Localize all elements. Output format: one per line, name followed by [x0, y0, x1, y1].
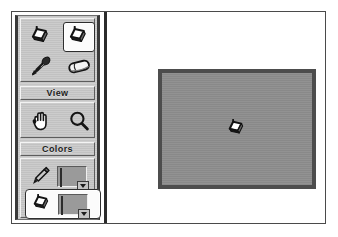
- tool-zoom[interactable]: [63, 106, 95, 136]
- swatch-background-dropdown[interactable]: [78, 209, 90, 219]
- paint-bucket-icon: [67, 26, 91, 48]
- view-group: [20, 102, 95, 138]
- tool-hand[interactable]: [25, 106, 57, 136]
- pencil-icon: [25, 165, 57, 187]
- app-window: View: [11, 11, 326, 224]
- tool-palette: View: [15, 15, 100, 220]
- color-row-background[interactable]: [25, 189, 101, 219]
- palette-surface: View: [18, 16, 97, 219]
- tool-eyedropper[interactable]: [25, 51, 57, 81]
- section-title-colors-label: Colors: [42, 145, 73, 154]
- colors-group: [20, 158, 95, 218]
- tools-group: [20, 18, 95, 82]
- swatch-background-fill: [61, 196, 63, 215]
- tool-fill-selected[interactable]: [63, 22, 95, 52]
- paint-bucket-icon: [29, 26, 53, 48]
- section-title-view: View: [20, 86, 95, 100]
- eraser-icon: [66, 56, 92, 76]
- document-canvas[interactable]: [158, 69, 316, 189]
- eyedropper-icon: [29, 55, 53, 77]
- chevron-down-icon: [80, 184, 86, 188]
- section-title-colors: Colors: [20, 142, 95, 156]
- tool-eraser[interactable]: [63, 51, 95, 81]
- hand-icon: [30, 110, 52, 132]
- paint-bucket-cursor: [226, 119, 248, 139]
- tool-paint-bucket-alt[interactable]: [25, 22, 57, 52]
- chevron-down-icon: [81, 212, 87, 216]
- palette-divider: [104, 12, 107, 223]
- magnifying-glass-icon: [68, 110, 90, 132]
- paint-bucket-icon: [26, 194, 58, 214]
- color-row-foreground[interactable]: [25, 161, 101, 191]
- swatch-foreground[interactable]: [57, 166, 87, 187]
- swatch-background[interactable]: [58, 194, 88, 215]
- swatch-foreground-fill: [60, 168, 62, 187]
- canvas-stage: [108, 13, 324, 222]
- section-title-view-label: View: [47, 89, 69, 98]
